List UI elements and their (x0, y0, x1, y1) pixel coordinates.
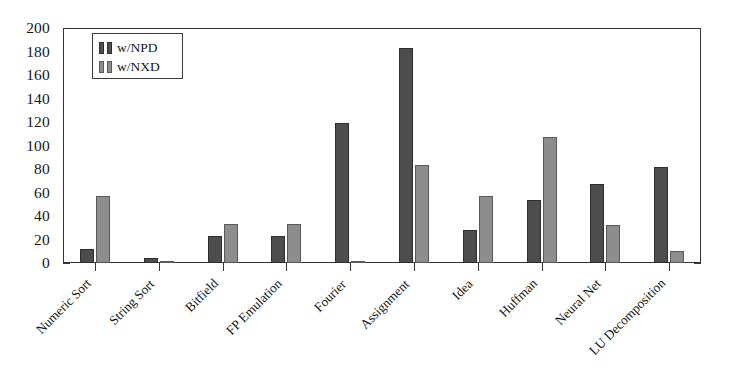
x-axis-category-label: Numeric Sort (33, 277, 93, 337)
x-axis-category-label: Fourier (311, 277, 348, 314)
x-axis-category-label: String Sort (106, 277, 156, 327)
bar-chart: 020406080100120140160180200 w/NPD w/NXD … (0, 0, 741, 389)
x-axis-category-label: Neural Net (553, 277, 604, 328)
x-axis-category-label: Bitfield (183, 277, 221, 315)
x-axis-labels: Numeric SortString SortBitfieldFP Emulat… (0, 0, 741, 389)
x-axis-category-label: Idea (450, 277, 475, 302)
x-axis-category-label: Huffman (497, 277, 540, 320)
x-axis-category-label: Assignment (358, 277, 412, 331)
x-axis-category-label: FP Emulation (224, 277, 285, 338)
